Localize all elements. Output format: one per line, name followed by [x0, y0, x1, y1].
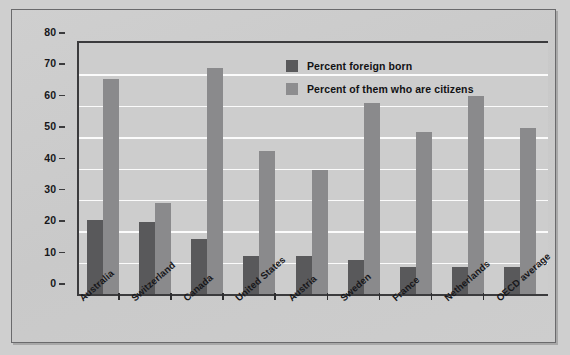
y-tick-30 — [59, 189, 65, 191]
y-tick-label-40: 40 — [28, 152, 56, 164]
x-tick-7 — [431, 293, 433, 300]
legend-entry-1: Percent foreign born — [286, 57, 474, 75]
x-tick-8 — [483, 293, 485, 300]
y-tick-80 — [59, 32, 65, 34]
y-tick-label-50: 50 — [28, 120, 56, 132]
legend-entry-2: Percent of them who are citizens — [286, 80, 474, 98]
legend-swatch-icon-dark — [286, 60, 298, 72]
x-tick-6 — [379, 293, 381, 300]
y-tick-20 — [59, 220, 65, 222]
y-tick-0 — [59, 283, 65, 285]
y-tick-70 — [59, 63, 65, 65]
bar-sweden-citizens — [364, 103, 380, 294]
y-tick-label-80: 80 — [28, 26, 56, 38]
x-tick-3 — [222, 293, 224, 300]
x-tick-2 — [170, 293, 172, 300]
scanned-page: 01020304050607080 AustraliaSwitzerlandCa… — [0, 0, 570, 355]
bar-canada-citizens — [207, 68, 223, 294]
figure-frame: 01020304050607080 AustraliaSwitzerlandCa… — [11, 9, 556, 343]
y-tick-10 — [59, 252, 65, 254]
bar-australia-citizens — [103, 79, 119, 294]
y-tick-label-60: 60 — [28, 89, 56, 101]
legend-label: Percent foreign born — [307, 60, 412, 72]
y-tick-label-10: 10 — [28, 246, 56, 258]
legend-swatch-icon-light — [286, 83, 298, 95]
chart-legend: Percent foreign bornPercent of them who … — [286, 57, 474, 103]
screenshot-root: 01020304050607080 AustraliaSwitzerlandCa… — [0, 0, 570, 355]
x-tick-1 — [118, 293, 120, 300]
legend-label: Percent of them who are citizens — [307, 83, 474, 95]
x-tick-5 — [327, 293, 329, 300]
y-tick-60 — [59, 95, 65, 97]
y-tick-40 — [59, 158, 65, 160]
bar-france-citizens — [416, 132, 432, 294]
y-tick-label-30: 30 — [28, 183, 56, 195]
x-tick-4 — [274, 293, 276, 300]
y-tick-50 — [59, 126, 65, 128]
y-tick-label-0: 0 — [28, 277, 56, 289]
y-tick-label-20: 20 — [28, 214, 56, 226]
y-tick-label-70: 70 — [28, 57, 56, 69]
